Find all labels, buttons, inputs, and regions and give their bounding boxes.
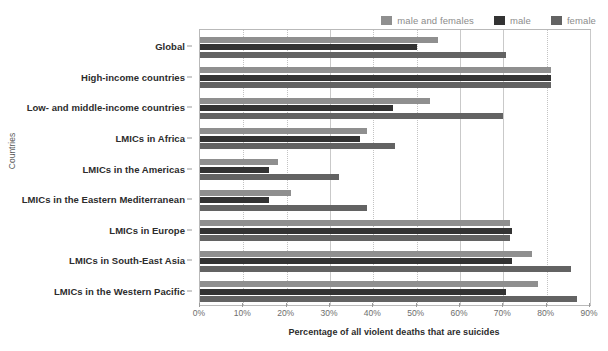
bar-group: [200, 159, 590, 180]
bar: [200, 82, 551, 88]
legend-item-male: male: [494, 15, 531, 26]
category-label: LMICs in the Eastern Mediterranean: [22, 194, 185, 205]
bar: [200, 197, 269, 203]
bar: [200, 167, 269, 173]
bar: [200, 159, 278, 165]
x-tick-mark: [459, 303, 460, 307]
bar-group: [200, 220, 590, 241]
category-tick-mark: [187, 137, 192, 138]
bar: [200, 75, 551, 81]
bar: [200, 258, 512, 264]
x-tick-label: 0%: [193, 308, 205, 318]
legend-swatch-male-and-females: [381, 16, 392, 25]
legend-label-male: male: [510, 15, 531, 26]
bar: [200, 98, 430, 104]
x-tick-mark: [199, 303, 200, 307]
category-tick-mark: [187, 46, 192, 47]
x-tick-mark: [286, 303, 287, 307]
bar-group: [200, 67, 590, 88]
x-tick-mark: [329, 303, 330, 307]
x-tick-label: 50%: [407, 308, 424, 318]
bar: [200, 289, 506, 295]
chart-legend: male and females male female: [0, 12, 596, 28]
bar: [200, 266, 571, 272]
bar-group: [200, 190, 590, 211]
y-axis-category-labels: GlobalHigh-income countriesLow- and midd…: [0, 29, 192, 304]
bar: [200, 190, 291, 196]
bar: [200, 37, 438, 43]
x-tick-mark: [546, 303, 547, 307]
category-tick-mark: [187, 229, 192, 230]
legend-swatch-male: [494, 16, 505, 25]
x-tick-label: 80%: [537, 308, 554, 318]
category-label: LMICs in Europe: [109, 224, 185, 235]
bar-group: [200, 98, 590, 119]
x-tick-label: 10%: [234, 308, 251, 318]
x-tick-label: 60%: [450, 308, 467, 318]
bar: [200, 113, 503, 119]
chart-plot-area: [199, 29, 591, 306]
category-label: LMICs in the Western Pacific: [54, 285, 185, 296]
x-tick-label: 20%: [277, 308, 294, 318]
bar-group: [200, 281, 590, 302]
bar: [200, 105, 393, 111]
bar-group: [200, 251, 590, 272]
x-tick-mark: [416, 303, 417, 307]
x-axis-title: Percentage of all violent deaths that ar…: [199, 327, 589, 337]
legend-item-female: female: [551, 15, 596, 26]
bar: [200, 220, 510, 226]
bar: [200, 143, 395, 149]
category-tick-mark: [187, 199, 192, 200]
chart-bars: [200, 30, 590, 305]
gridline-90: [590, 30, 592, 305]
category-label: LMICs in South-East Asia: [69, 255, 185, 266]
legend-item-male-and-females: male and females: [381, 15, 474, 26]
bar: [200, 136, 360, 142]
x-tick-label: 70%: [494, 308, 511, 318]
bar: [200, 128, 367, 134]
legend-label-male-and-females: male and females: [397, 15, 474, 26]
category-label: Low- and middle-income countries: [27, 102, 185, 113]
x-tick-label: 90%: [580, 308, 597, 318]
bar: [200, 205, 367, 211]
bar: [200, 44, 417, 50]
legend-label-female: female: [567, 15, 596, 26]
x-tick-mark: [589, 303, 590, 307]
bar: [200, 174, 339, 180]
category-tick-mark: [187, 76, 192, 77]
bar: [200, 67, 551, 73]
bar-group: [200, 128, 590, 149]
x-tick-mark: [242, 303, 243, 307]
bar: [200, 228, 512, 234]
bar: [200, 251, 532, 257]
category-label: Global: [155, 41, 185, 52]
category-tick-mark: [187, 107, 192, 108]
x-tick-mark: [502, 303, 503, 307]
bar: [200, 281, 538, 287]
bar: [200, 235, 510, 241]
category-label: LMICs in the Americas: [82, 163, 185, 174]
category-tick-mark: [187, 260, 192, 261]
bar-group: [200, 37, 590, 58]
x-tick-label: 40%: [364, 308, 381, 318]
legend-swatch-female: [551, 16, 562, 25]
category-tick-mark: [187, 168, 192, 169]
bar: [200, 296, 577, 302]
category-tick-mark: [187, 290, 192, 291]
bar: [200, 52, 506, 58]
category-label: High-income countries: [81, 71, 185, 82]
x-axis-ticks: 0%10%20%30%40%50%60%70%80%90%: [199, 308, 589, 320]
x-tick-mark: [372, 303, 373, 307]
x-tick-label: 30%: [320, 308, 337, 318]
category-label: LMICs in Africa: [115, 132, 185, 143]
